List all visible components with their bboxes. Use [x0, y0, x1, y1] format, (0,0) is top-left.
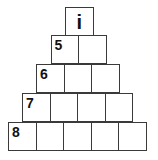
pyramid-cell[interactable]: [105, 93, 134, 122]
pyramid-cell[interactable]: [63, 122, 92, 151]
pyramid-row-4: 7: [22, 93, 133, 122]
row-label: i: [66, 11, 93, 33]
pyramid-cell[interactable]: [36, 122, 65, 151]
row-label: 8: [12, 125, 20, 139]
pyramid-cell[interactable]: 5: [51, 35, 80, 64]
pyramid-cell[interactable]: [91, 64, 120, 93]
row-label: 7: [26, 96, 34, 110]
pyramid-row-5: 8: [8, 122, 147, 151]
pyramid-cell[interactable]: 8: [8, 122, 37, 151]
pyramid-cell[interactable]: [64, 64, 93, 93]
pyramid-cell[interactable]: [91, 122, 120, 151]
pyramid-cell[interactable]: [118, 122, 147, 151]
row-label: 5: [55, 38, 63, 52]
pyramid-cell[interactable]: [78, 35, 107, 64]
pyramid-cell[interactable]: 7: [22, 93, 51, 122]
pyramid-cell[interactable]: [50, 93, 79, 122]
pyramid-cell[interactable]: 6: [36, 64, 65, 93]
pyramid-row-2: 5: [51, 35, 107, 64]
pyramid-row-3: 6: [36, 64, 120, 93]
pyramid-cell[interactable]: [77, 93, 106, 122]
pyramid-row-1: i: [65, 7, 94, 36]
pyramid-cell[interactable]: i: [65, 7, 94, 36]
row-label: 6: [40, 67, 48, 81]
